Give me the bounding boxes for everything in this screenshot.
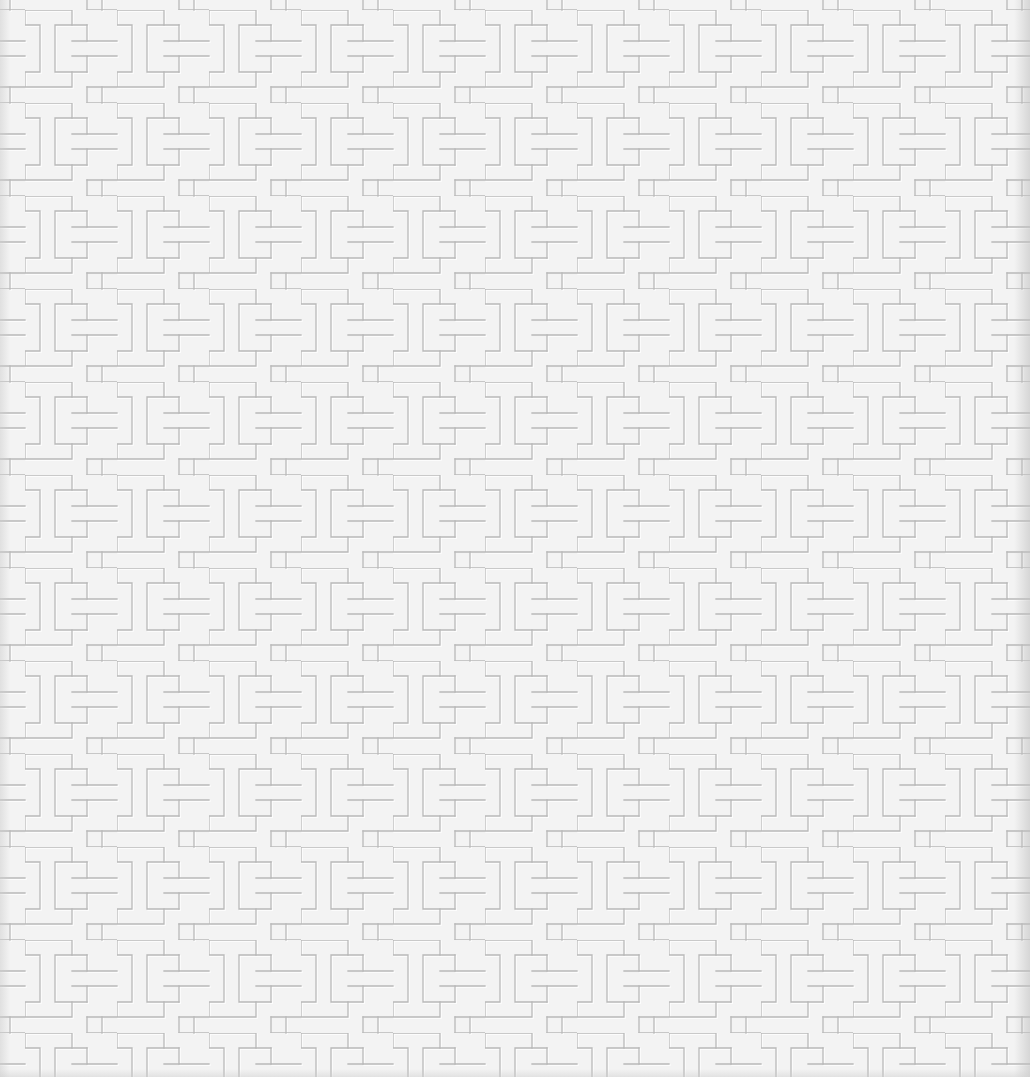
left-edge-shadow <box>0 0 10 1077</box>
embossed-paper-texture <box>0 0 1030 1077</box>
bottom-edge-shadow <box>0 1069 1030 1077</box>
right-edge-shadow <box>1014 0 1030 1077</box>
t-key-pattern <box>0 0 1030 1077</box>
